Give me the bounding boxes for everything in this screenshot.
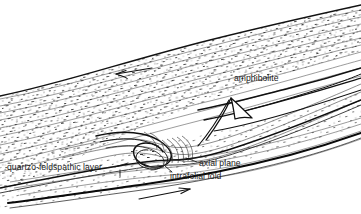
label-quartzo-feldspathic-layer: quartzo-feldspathic layer [7,163,102,172]
label-amphibolite: amphibolite [234,74,279,83]
axial-plane-wedge-icon [231,98,252,119]
figure-root: amphibolite quartzo-feldspathic layer ax… [0,0,361,214]
intrafolial-fold-diagram [0,0,361,214]
label-intrafolial-fold: intrafolial fold [170,172,221,181]
label-axial-plane: axial plane [199,159,241,168]
